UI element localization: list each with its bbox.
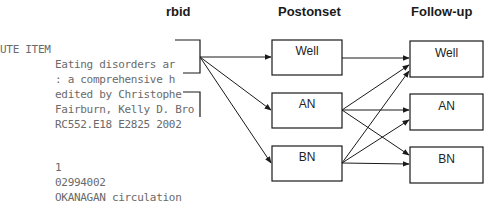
followup-label-bn: BN [410,152,483,166]
postonset-label-well: Well [272,44,342,58]
heading-followup: Follow-up [411,4,472,19]
overlay-line: 02994002 [55,176,106,190]
overlay-line: edited by Christophe [55,88,181,102]
overlay-line: Fairburn, Kelly D. Bro [55,103,194,117]
heading-postonset: Postonset [278,4,341,19]
diagram-stage: rbid Postonset Follow-up Well AN BN Well… [0,0,493,210]
arrow-bn-to-bn [342,163,409,164]
arrow-morbid-to-an [200,57,271,110]
overlay-line: 1 [55,161,61,175]
postonset-label-bn: BN [272,150,342,164]
overlay-header: UTE ITEM [0,43,51,57]
followup-label-an: AN [410,99,483,113]
morbid-box-1 [175,40,200,73]
followup-label-well: Well [410,46,483,60]
overlay-line: RC552.E18 E2825 2002 [55,118,181,132]
arrow-bn-to-an [342,120,409,163]
arrow-morbid-to-bn [200,57,271,163]
arrow-an-to-well [342,65,409,110]
heading-morbid: rbid [166,4,191,19]
overlay-line: : a comprehensive h [55,73,175,87]
overlay-line: OKANAGAN circulation [55,191,181,205]
postonset-label-an: AN [272,97,342,111]
overlay-line: Eating disorders ar [55,58,175,72]
